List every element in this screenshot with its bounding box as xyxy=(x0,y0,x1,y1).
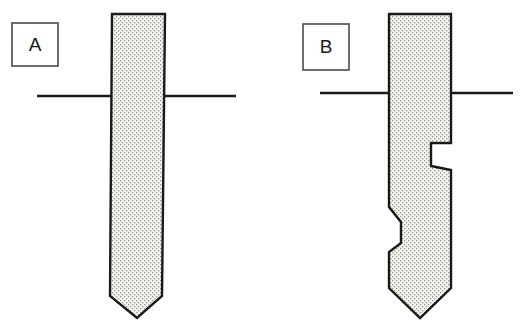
figure-root: A B xyxy=(0,0,524,324)
panel-a: A xyxy=(12,14,236,318)
probe-profile-diagram: A B xyxy=(0,0,524,324)
panel-b: B xyxy=(303,14,513,318)
panel-label-a: A xyxy=(29,34,42,55)
probe-shaft-a xyxy=(110,14,165,318)
probe-shaft-b xyxy=(389,14,451,318)
panel-label-b: B xyxy=(320,36,333,57)
